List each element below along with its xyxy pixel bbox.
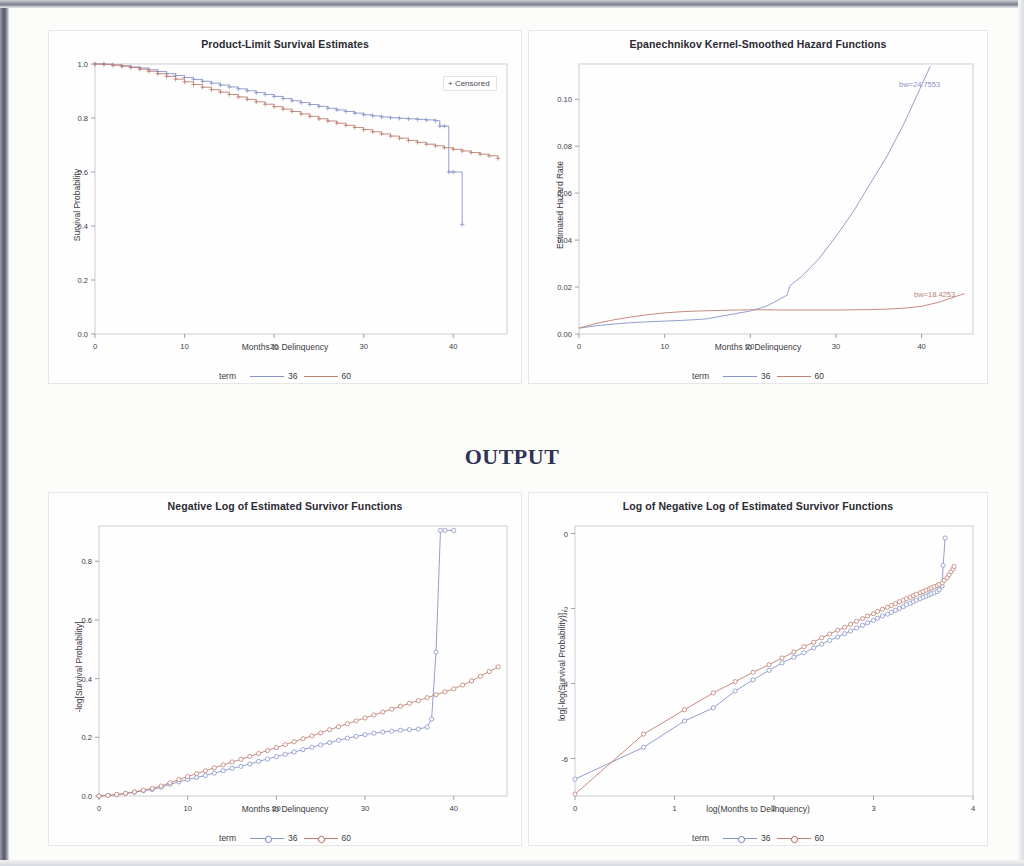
legend-title: term [692,371,709,381]
legend-label-36: 36 [288,833,297,843]
legend-item-60[interactable]: 60 [777,833,824,843]
y-axis-label: log[-log(Survival Probability)] [557,572,567,762]
legend-item-36[interactable]: 36 [723,371,770,381]
legend-label-60: 60 [815,371,824,381]
legend-item-60[interactable]: 60 [304,833,351,843]
legend-swatch-60-icon [777,376,811,377]
page-edge-bottom [0,860,1024,866]
chart-legend: term 36 60 [529,371,987,381]
svg-text:0.0: 0.0 [81,792,92,801]
legend-swatch-60-icon [304,376,338,377]
plot-area: log[-log(Survival Probability)] 01234-6-… [529,512,987,830]
plot-area: Estimated Hazard Rate bw=24.7553 bw=18.4… [529,50,987,368]
legend-item-36[interactable]: 36 [723,833,770,843]
legend-swatch-36-icon [723,838,757,839]
legend-title: term [692,833,709,843]
chart-svg-log-negative-log: 01234-6-4-20 [529,512,987,830]
chart-title: Epanechnikov Kernel-Smoothed Hazard Func… [529,38,987,50]
censored-legend: + Censored [443,76,497,91]
x-axis-label: Months to Delinquency [49,804,521,814]
output-heading: OUTPUT [0,444,1024,470]
chart-svg-negative-log: 0102030400.00.20.40.60.8 [49,512,521,830]
svg-text:0.8: 0.8 [77,114,88,123]
legend-swatch-36-icon [723,376,757,377]
legend-label-60: 60 [342,833,351,843]
legend-label-36: 36 [288,371,297,381]
legend-item-36[interactable]: 36 [250,371,297,381]
legend-label-36: 36 [761,371,770,381]
page-edge-left [0,0,9,866]
chart-panel-log-negative-log-survivor: Log of Negative Log of Estimated Survivo… [528,492,988,846]
legend-swatch-36-icon [250,376,284,377]
chart-title: Log of Negative Log of Estimated Survivo… [529,500,987,512]
svg-text:1.0: 1.0 [77,60,88,69]
legend-item-36[interactable]: 36 [250,833,297,843]
x-axis-label: log(Months to Delinquency) [529,804,987,814]
chart-svg-hazard: 0102030400.000.020.040.060.080.10 [529,50,987,368]
bandwidth-label-36: bw=24.7553 [899,80,940,89]
legend-title: term [219,833,236,843]
svg-text:0: 0 [564,530,568,539]
svg-text:0.0: 0.0 [77,330,88,339]
chart-title: Product-Limit Survival Estimates [49,38,521,50]
svg-text:0.00: 0.00 [557,330,572,339]
legend-swatch-60-icon [304,838,338,839]
x-axis-label: Months to Delinquency [529,342,987,352]
chart-legend: term 36 60 [49,371,521,381]
legend-item-60[interactable]: 60 [777,371,824,381]
bandwidth-label-60: bw=18.4253 [914,290,955,299]
plot-area: Survival Probability + Censored 01020304… [49,50,521,368]
legend-swatch-60-icon [777,838,811,839]
chart-legend: term 36 60 [49,833,521,843]
y-axis-label: Survival Probability [72,125,82,285]
legend-title: term [219,371,236,381]
legend-swatch-36-icon [250,838,284,839]
chart-panel-negative-log-survivor: Negative Log of Estimated Survivor Funct… [48,492,522,846]
scanned-page: Product-Limit Survival Estimates Surviva… [0,0,1024,866]
legend-label-36: 36 [761,833,770,843]
chart-legend: term 36 60 [529,833,987,843]
svg-text:0.10: 0.10 [557,95,572,104]
chart-svg-survival: 0102030400.00.20.40.60.81.0 [49,50,521,368]
legend-label-60: 60 [815,833,824,843]
y-axis-label: -log[Survival Probability] [74,577,84,757]
x-axis-label: Months to Delinquency [49,342,521,352]
page-edge-right [1018,0,1024,866]
legend-label-60: 60 [342,371,351,381]
chart-panel-survival-estimates: Product-Limit Survival Estimates Surviva… [48,30,522,384]
page-edge-top [0,0,1024,8]
plot-area: -log[Survival Probability] 0102030400.00… [49,512,521,830]
chart-title: Negative Log of Estimated Survivor Funct… [49,500,521,512]
y-axis-label: Estimated Hazard Rate [555,120,565,290]
svg-text:0.8: 0.8 [81,557,92,566]
chart-panel-hazard-functions: Epanechnikov Kernel-Smoothed Hazard Func… [528,30,988,384]
legend-item-60[interactable]: 60 [304,371,351,381]
